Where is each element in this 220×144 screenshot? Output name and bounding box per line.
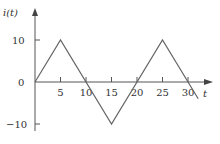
- y-tick-label-neg10: −10: [6, 119, 27, 130]
- x-ticks: 51015202530: [57, 77, 194, 98]
- x-tick-label-25: 25: [156, 87, 169, 98]
- y-tick-label-0: 0: [18, 77, 24, 88]
- y-tick-label-10: 10: [12, 35, 25, 46]
- y-axis-arrow-icon: [32, 8, 38, 16]
- y-axis-label: i(t): [3, 7, 18, 18]
- x-axis-label: t: [203, 88, 208, 99]
- x-tick-label-5: 5: [57, 87, 63, 98]
- x-axis-arrow-icon: [204, 79, 213, 85]
- triangle-wave-chart: 51015202530 i(t) 10 0 −10 t: [0, 0, 220, 144]
- x-tick-label-15: 15: [105, 87, 118, 98]
